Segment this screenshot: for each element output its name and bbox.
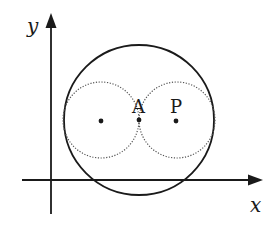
x-axis-arrow-icon — [248, 175, 263, 186]
point-p-label: P — [170, 96, 182, 117]
left-center-point — [99, 119, 104, 124]
point-a — [137, 118, 142, 123]
point-p — [174, 119, 179, 124]
coordinate-diagram: y x A P — [0, 0, 277, 231]
x-axis-label: x — [250, 193, 261, 217]
y-axis-arrow-icon — [46, 13, 57, 28]
y-axis-label: y — [26, 14, 39, 38]
point-a-label: A — [131, 96, 146, 117]
